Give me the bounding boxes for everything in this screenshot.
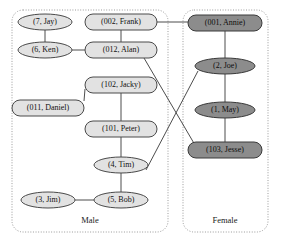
node-label-annie: (001, Annie)	[205, 18, 246, 27]
node-label-jim: (3, Jim)	[36, 195, 61, 204]
relationship-graph: (7, Jay)(002, Frank)(6, Ken)(012, Alan)(…	[0, 0, 281, 244]
node-daniel[interactable]: (011, Daniel)	[12, 100, 84, 116]
diagram-canvas: (7, Jay)(002, Frank)(6, Ken)(012, Alan)(…	[0, 0, 281, 244]
node-label-tim: (4, Tim)	[108, 160, 135, 169]
node-jesse[interactable]: (103, Jesse)	[188, 142, 262, 158]
node-label-may: (1, May)	[211, 105, 239, 114]
group-labels: MaleFemale	[81, 215, 237, 225]
edge-jacky-daniel	[84, 89, 85, 101]
node-label-jay: (7, Jay)	[33, 17, 57, 26]
node-label-ken: (6, Ken)	[32, 45, 59, 54]
node-joe[interactable]: (2, Joe)	[195, 58, 255, 74]
node-label-bob: (5, Bob)	[108, 195, 135, 204]
node-ken[interactable]: (6, Ken)	[18, 42, 72, 58]
node-label-daniel: (011, Daniel)	[27, 103, 70, 112]
node-jacky[interactable]: (102, Jacky)	[85, 77, 157, 93]
group-label-male: Male	[81, 215, 99, 225]
node-jim[interactable]: (3, Jim)	[21, 192, 75, 208]
node-label-jesse: (103, Jesse)	[206, 145, 244, 154]
node-bob[interactable]: (5, Bob)	[94, 192, 148, 208]
node-peter[interactable]: (101, Peter)	[85, 121, 157, 137]
node-label-frank: (002, Frank)	[101, 17, 141, 26]
node-may[interactable]: (1, May)	[195, 102, 255, 118]
node-jay[interactable]: (7, Jay)	[18, 14, 72, 30]
node-label-alan: (012, Alan)	[103, 45, 140, 54]
node-annie[interactable]: (001, Annie)	[188, 15, 262, 31]
node-alan[interactable]: (012, Alan)	[85, 42, 157, 58]
node-label-jacky: (102, Jacky)	[101, 80, 141, 89]
group-label-female: Female	[212, 215, 237, 225]
node-frank[interactable]: (002, Frank)	[85, 14, 157, 30]
node-label-peter: (101, Peter)	[102, 124, 140, 133]
node-label-joe: (2, Joe)	[213, 61, 237, 70]
node-tim[interactable]: (4, Tim)	[94, 157, 148, 173]
